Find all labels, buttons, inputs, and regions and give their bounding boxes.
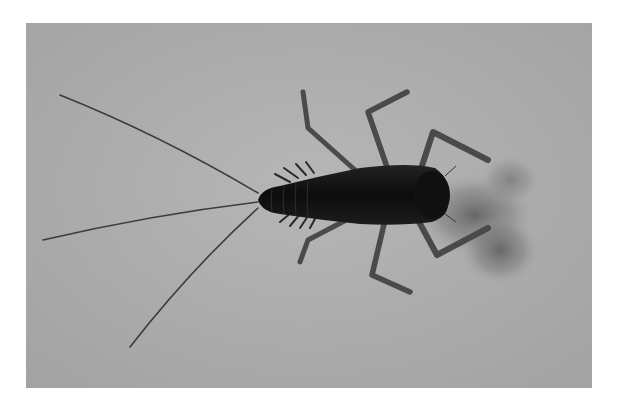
mayfly-nymph-illustration xyxy=(26,23,592,388)
figure-caption xyxy=(52,404,572,414)
insect-photo xyxy=(26,23,592,388)
